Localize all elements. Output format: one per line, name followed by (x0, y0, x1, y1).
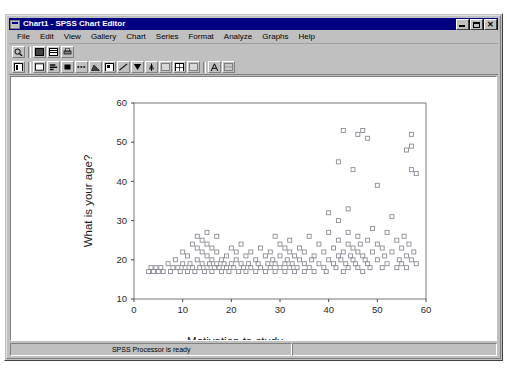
axis-label-button[interactable] (159, 61, 172, 73)
error-bars-button[interactable] (145, 61, 158, 73)
chart-properties-button[interactable] (12, 61, 25, 73)
window-inner-frame: Chart1 - SPSS Chart Editor ✕ File Edit V… (6, 15, 501, 359)
menu-label-help: Help (299, 32, 315, 41)
stacked-bar-icon (63, 63, 72, 71)
triangle-down-icon (133, 63, 142, 71)
menu-label-edit: Edit (40, 32, 54, 41)
toolbar-separator (28, 47, 31, 58)
pie-chart-button[interactable] (103, 61, 116, 73)
svg-text:20: 20 (226, 304, 237, 315)
svg-text:50: 50 (372, 304, 383, 315)
menu-label-gallery: Gallery (91, 32, 116, 41)
fit-line-button[interactable] (131, 61, 144, 73)
filled-square-icon (35, 48, 44, 56)
svg-text:40: 40 (116, 176, 127, 187)
magnifier-icon (14, 48, 23, 56)
svg-text:10: 10 (177, 304, 188, 315)
scatter-plot[interactable]: 1020304050600102030405060What is your ag… (11, 77, 497, 341)
menu-label-format: Format (188, 32, 213, 41)
marker-style-button[interactable] (187, 61, 200, 73)
menu-bar: File Edit View Gallery Chart Series Form… (9, 31, 498, 44)
dashed-line-icon (77, 63, 86, 71)
area-chart-button[interactable] (89, 61, 102, 73)
printer-icon (63, 48, 72, 56)
menu-item-format[interactable]: Format (183, 31, 218, 43)
fill-pattern-button[interactable] (33, 46, 46, 58)
menu-label-chart: Chart (126, 32, 146, 41)
grid-icon (175, 63, 184, 71)
toolbar-secondary (9, 60, 498, 75)
maximize-button[interactable] (470, 19, 483, 30)
horizontal-bar-button[interactable] (47, 61, 60, 73)
stacked-bar-button[interactable] (61, 61, 74, 73)
chart-window-icon (10, 20, 20, 29)
status-message: SPSS Processor is ready (10, 343, 292, 356)
svg-text:30: 30 (275, 304, 286, 315)
menu-label-view: View (64, 32, 81, 41)
svg-text:What is your age?: What is your age? (82, 155, 94, 248)
window-controls: ✕ (456, 19, 497, 30)
menu-label-series: Series (156, 32, 179, 41)
scatter-plot-button[interactable] (117, 61, 130, 73)
toolbar-primary (9, 45, 498, 59)
title-bar[interactable]: Chart1 - SPSS Chart Editor ✕ (9, 18, 498, 30)
menu-label-graphs: Graphs (262, 32, 288, 41)
menu-item-file[interactable]: File (12, 31, 35, 43)
pie-chart-icon (105, 63, 114, 71)
bar-chart-icon (35, 63, 44, 71)
svg-text:10: 10 (116, 293, 127, 304)
text-icon (210, 63, 219, 71)
axis-icon (161, 63, 170, 71)
zoom-tool-button[interactable] (12, 46, 25, 58)
svg-text:40: 40 (323, 304, 334, 315)
menu-label-analyze: Analyze (224, 32, 252, 41)
area-chart-icon (91, 63, 100, 71)
svg-text:50: 50 (116, 136, 127, 147)
menu-label-file: File (17, 32, 30, 41)
chart-canvas[interactable]: 1020304050600102030405060What is your ag… (10, 76, 497, 341)
svg-text:0: 0 (131, 304, 136, 315)
svg-text:60: 60 (116, 97, 127, 108)
chart-layout-button[interactable] (47, 46, 60, 58)
status-bar: SPSS Processor is ready (10, 343, 497, 356)
properties-icon (14, 63, 23, 71)
close-icon: ✕ (485, 20, 496, 29)
print-button[interactable] (61, 46, 74, 58)
menu-item-gallery[interactable]: Gallery (86, 31, 121, 43)
spin-tool-button[interactable] (222, 61, 235, 73)
svg-text:60: 60 (421, 304, 432, 315)
menu-item-view[interactable]: View (59, 31, 86, 43)
menu-item-edit[interactable]: Edit (35, 31, 59, 43)
grid-lines-button[interactable] (173, 61, 186, 73)
error-bar-icon (147, 63, 156, 71)
menu-item-graphs[interactable]: Graphs (257, 31, 293, 43)
svg-text:Motivation to study: Motivation to study (187, 335, 283, 341)
window-title: Chart1 - SPSS Chart Editor (23, 18, 125, 30)
spin-icon (224, 63, 233, 71)
screenshot-root: Chart1 - SPSS Chart Editor ✕ File Edit V… (0, 0, 507, 374)
toolbar-separator (28, 62, 31, 73)
text-tool-button[interactable] (208, 61, 221, 73)
svg-text:30: 30 (116, 215, 127, 226)
toolbar-separator (203, 62, 206, 73)
marker-icon (189, 63, 198, 71)
status-secondary-pane (292, 343, 497, 356)
svg-text:20: 20 (116, 254, 127, 265)
minimize-button[interactable] (456, 19, 469, 30)
menu-item-help[interactable]: Help (294, 31, 320, 43)
scatter-icon (119, 63, 128, 71)
line-style-button[interactable] (75, 61, 88, 73)
menu-item-chart[interactable]: Chart (121, 31, 151, 43)
spss-chart-editor-window: Chart1 - SPSS Chart Editor ✕ File Edit V… (4, 13, 503, 361)
bar-chart-button[interactable] (33, 61, 46, 73)
layout-icon (49, 48, 58, 56)
horizontal-bar-icon (49, 63, 58, 71)
menu-item-analyze[interactable]: Analyze (219, 31, 257, 43)
menu-item-series[interactable]: Series (151, 31, 184, 43)
close-button[interactable]: ✕ (484, 19, 497, 30)
